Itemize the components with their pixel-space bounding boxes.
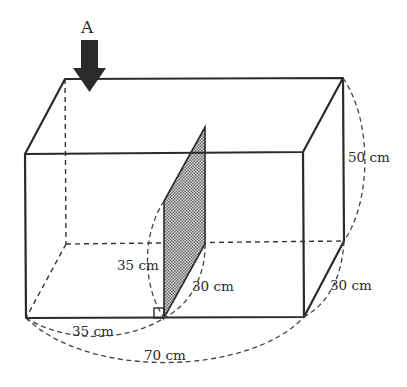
height-label: 50 cm xyxy=(348,149,390,165)
depth-label: 30 cm xyxy=(330,277,372,293)
arrow-label: A xyxy=(80,17,94,37)
length-label: 70 cm xyxy=(144,347,186,363)
back-right-vertical-edge xyxy=(343,78,344,241)
down-arrow-icon xyxy=(73,40,106,92)
view-arrow: A xyxy=(73,17,106,92)
back-left-vertical-edge xyxy=(65,79,66,244)
partition-width-label: 30 cm xyxy=(192,278,234,294)
top-face-outline xyxy=(25,78,343,154)
offset-label: 35 cm xyxy=(72,323,114,339)
bottom-left-depth-edge xyxy=(26,244,66,318)
diagram-canvas: A 50 cm 30 cm 70 cm 35 cm 35 cm 30 cm xyxy=(0,0,407,387)
partition-height-label: 35 cm xyxy=(117,257,159,273)
